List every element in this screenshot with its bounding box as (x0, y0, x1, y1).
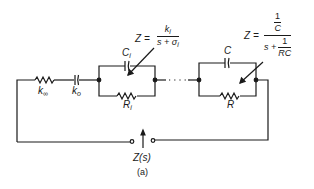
right-wire (155, 80, 268, 140)
impedance-last-den: s + 1 RC (264, 37, 291, 59)
label-k-inf: k∞ (38, 86, 48, 97)
block-i-frame-bottom (99, 80, 155, 96)
capacitor-c (225, 58, 229, 68)
block-i-frame-top (99, 66, 155, 80)
left-wire (17, 80, 35, 142)
resistor-k-inf (35, 77, 54, 83)
label-c: C (224, 46, 231, 56)
figure-caption: (a) (137, 168, 148, 177)
arrow-block-i (128, 48, 154, 75)
impedance-i-num: ki (165, 25, 171, 35)
terminal-left (130, 140, 134, 144)
label-ci: Ci (122, 48, 131, 59)
impedance-last-num: 1 C (274, 12, 281, 34)
block-last-frame-top (199, 63, 256, 80)
impedance-i-lhs: Z = (135, 33, 150, 44)
impedance-last-fraction: 1 C s + 1 RC (264, 12, 291, 59)
label-k0: ko (72, 86, 81, 97)
impedance-i-den: s + σi (157, 38, 179, 48)
label-zs: Z(s) (133, 153, 151, 163)
impedance-i-fraction: ki s + σi (157, 25, 179, 49)
arrowhead (141, 130, 145, 135)
impedance-last-lhs: Z = (244, 30, 259, 41)
label-r: R (227, 100, 234, 110)
terminal-right (151, 139, 155, 143)
capacitor-ci (125, 61, 129, 71)
label-ri: Ri (123, 100, 132, 111)
capacitor-k0 (75, 75, 79, 85)
